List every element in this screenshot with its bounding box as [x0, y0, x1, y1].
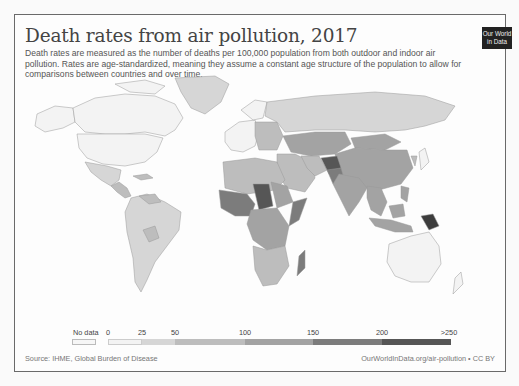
region-mexico — [85, 162, 121, 186]
source-note: Source: IHME, Global Burden of Disease — [25, 354, 158, 363]
region-southern-africa — [253, 246, 289, 286]
chart-title: Death rates from air pollution, 2017 — [25, 25, 357, 46]
region-philippines — [401, 186, 409, 202]
region-new-zealand — [453, 272, 463, 294]
region-canada — [73, 94, 183, 136]
legend-tick-150: 150 — [307, 328, 319, 337]
legend-nodata-swatch[interactable] — [72, 339, 96, 345]
legend-tick-100: 100 — [239, 328, 251, 337]
region-papua-new-guinea — [421, 214, 439, 230]
region-caribbean — [133, 174, 153, 180]
region-russia — [265, 92, 455, 132]
legend-tick-200: 200 — [376, 328, 388, 337]
legend-bin-0-25[interactable] — [108, 339, 142, 345]
region-alaska — [35, 106, 75, 132]
region-usa — [77, 134, 163, 166]
legend-bin-100-150[interactable] — [245, 339, 313, 345]
owid-logo[interactable]: Our World in Data — [482, 27, 512, 49]
legend-bin-200-250[interactable] — [382, 339, 451, 345]
credit-link[interactable]: OurWorldInData.org/air-pollution • CC BY — [361, 354, 495, 363]
region-scandinavia — [241, 100, 267, 120]
logo-line1: Our World — [482, 30, 512, 38]
legend-tick-0: 0 — [106, 328, 110, 337]
region-central-america — [111, 182, 131, 198]
region-eastern-europe — [255, 122, 283, 150]
logo-line2: in Data — [482, 38, 512, 46]
region-greenland — [175, 76, 229, 114]
legend-tick-50: 50 — [171, 328, 179, 337]
legend-bin-25-50[interactable] — [142, 339, 175, 345]
region-mongolia — [351, 134, 401, 150]
region-canada-islands — [115, 80, 165, 94]
legend-tick-25: 25 — [138, 328, 146, 337]
region-australia — [387, 232, 441, 282]
region-western-europe — [225, 120, 259, 152]
region-japan — [419, 148, 429, 170]
region-southeast-asia — [367, 186, 387, 216]
chart-frame: Death rates from air pollution, 2017 Dea… — [14, 14, 506, 372]
legend-bin-50-100[interactable] — [175, 339, 245, 345]
legend-nodata-label: No data — [73, 328, 99, 337]
region-madagascar — [297, 250, 305, 276]
legend-tick-250: >250 — [441, 328, 457, 337]
region-west-africa — [219, 190, 255, 216]
world-map[interactable] — [15, 70, 505, 325]
region-borneo — [389, 204, 405, 218]
region-south-america — [125, 194, 181, 292]
legend-bin-150-200[interactable] — [313, 339, 382, 345]
color-legend: No data 0 25 50 100 150 200 >250 — [15, 328, 505, 352]
region-central-africa — [247, 208, 289, 250]
region-indonesia — [369, 218, 413, 232]
